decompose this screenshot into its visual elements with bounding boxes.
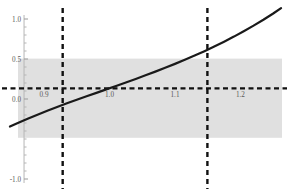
axis-layer xyxy=(24,15,28,183)
x-tick-label: 1.1 xyxy=(170,91,179,99)
y-tick-label: -1.0 xyxy=(10,176,22,184)
y-tick-label: 1.0 xyxy=(12,16,21,24)
y-tick-label: 0.0 xyxy=(12,96,21,104)
chart-figure: 1.00.50.0-1.0 0.91.01.11.2 xyxy=(0,0,289,194)
x-tick-label: 0.9 xyxy=(40,91,49,99)
y-axis-tick-labels: 1.00.50.0-1.0 xyxy=(10,16,22,184)
plot-canvas: 1.00.50.0-1.0 0.91.01.11.2 xyxy=(0,0,289,194)
x-tick-label: 1.0 xyxy=(105,91,114,99)
x-tick-label: 1.2 xyxy=(236,91,245,99)
y-tick-label: 0.5 xyxy=(12,56,21,64)
